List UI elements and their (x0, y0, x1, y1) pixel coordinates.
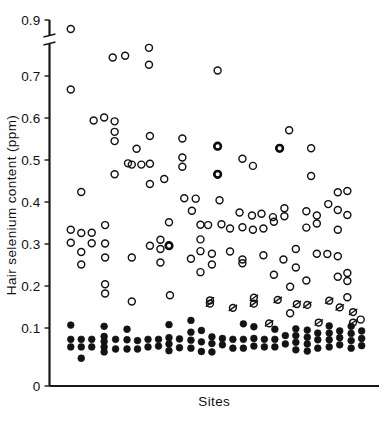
data-point-open (308, 172, 315, 179)
data-point-open (67, 26, 74, 33)
data-point-open (334, 189, 341, 196)
data-point-open (138, 161, 145, 168)
data-point-open (102, 240, 109, 247)
data-point-open (281, 213, 288, 220)
data-point-filled (358, 342, 365, 349)
data-point-filled (348, 345, 355, 352)
data-point-slashed (325, 297, 333, 304)
data-point-open (324, 251, 331, 258)
data-point-open (67, 239, 74, 246)
data-point-open (236, 209, 243, 216)
data-point-filled (209, 349, 216, 356)
data-point-open (313, 250, 320, 257)
data-point-filled (304, 348, 311, 355)
data-point-filled (314, 336, 321, 343)
data-point-open (249, 226, 256, 233)
data-point-filled (101, 349, 108, 356)
data-point-open (303, 224, 310, 231)
data-point-filled (240, 345, 247, 352)
data-point-open (344, 212, 351, 219)
data-point-filled (78, 336, 85, 343)
data-point-open (179, 135, 186, 142)
scatter-plot-figure: 0.90.70.60.50.40.30.20.10Hair selenium c… (0, 0, 385, 423)
data-point-open (122, 52, 129, 59)
data-point-filled (188, 337, 195, 344)
y-tick-label: 0 (33, 379, 41, 394)
data-point-filled (209, 333, 216, 340)
data-point-open (286, 127, 293, 134)
data-point-open (111, 118, 118, 125)
data-point-filled (188, 345, 195, 352)
data-point-open (179, 163, 186, 170)
data-point-open (111, 138, 118, 145)
data-point-open (334, 226, 341, 233)
y-axis-title-text: Hair selenium content (ppm) (4, 115, 19, 295)
data-point-open (102, 254, 109, 261)
data-point-filled (198, 338, 205, 345)
data-point-filled (282, 332, 289, 339)
data-point-filled (101, 323, 108, 330)
data-point-filled (261, 344, 268, 351)
data-point-open (88, 240, 95, 247)
data-point-filled (166, 347, 173, 354)
data-point-filled (229, 336, 236, 343)
data-point-open (248, 212, 255, 219)
data-point-filled (348, 323, 355, 330)
data-point-filled (358, 335, 365, 342)
data-point-open (111, 171, 118, 178)
data-point-open (111, 128, 118, 135)
data-point-open (179, 154, 186, 161)
data-point-open (197, 269, 204, 276)
data-point-open (260, 225, 267, 232)
data-point-open (128, 298, 135, 305)
data-point-open (67, 226, 74, 233)
data-point-bold-open (166, 242, 173, 249)
data-point-filled (336, 334, 343, 341)
data-point-filled (336, 341, 343, 348)
data-point-filled (261, 336, 268, 343)
data-point-filled (88, 336, 95, 343)
data-point-open (214, 67, 221, 74)
data-point-open (146, 133, 153, 140)
y-tick-label: 0.1 (21, 321, 40, 336)
data-point-open (102, 222, 109, 229)
data-point-open (102, 290, 109, 297)
series-bold-open-circle (166, 143, 283, 249)
data-point-filled (124, 346, 131, 353)
data-point-filled (240, 336, 247, 343)
data-point-open (292, 246, 299, 253)
data-point-filled (229, 345, 236, 352)
data-point-filled (348, 330, 355, 337)
data-point-filled (166, 341, 173, 348)
plot-canvas: 0.90.70.60.50.40.30.20.10Hair selenium c… (0, 0, 385, 423)
data-point-open (192, 195, 199, 202)
y-tick-label: 0.3 (21, 237, 40, 252)
data-point-filled (326, 344, 333, 351)
y-tick-label: 0.4 (21, 195, 41, 210)
data-point-open (109, 54, 116, 61)
data-point-slashed (303, 302, 311, 309)
data-point-filled (326, 330, 333, 337)
data-point-filled (292, 346, 299, 353)
data-point-open (308, 145, 315, 152)
data-point-open (344, 294, 351, 301)
data-point-filled (282, 341, 289, 348)
data-point-open (165, 219, 172, 226)
data-point-open (88, 229, 95, 236)
data-point-open (258, 210, 265, 217)
data-point-filled (219, 341, 226, 348)
data-point-filled (292, 339, 299, 346)
data-point-filled (314, 345, 321, 352)
data-point-slashed (265, 320, 273, 327)
data-point-filled (326, 323, 333, 330)
data-point-open (313, 212, 320, 219)
data-point-filled (348, 337, 355, 344)
data-point-open (287, 310, 294, 317)
y-tick-label: 0.2 (21, 279, 40, 294)
data-point-filled (271, 344, 278, 351)
data-point-open (78, 261, 85, 268)
data-point-filled (198, 348, 205, 355)
data-point-slashed (274, 296, 282, 303)
data-point-open (227, 248, 234, 255)
data-point-open (334, 253, 341, 260)
